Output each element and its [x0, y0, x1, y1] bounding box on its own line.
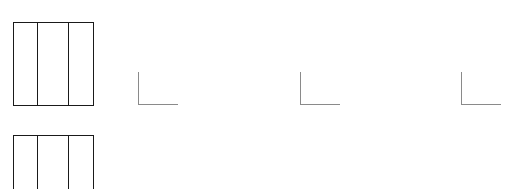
three-column-box-top [13, 22, 94, 106]
column-divider-2 [68, 23, 69, 105]
diagram-canvas [0, 0, 505, 189]
column-divider-2 [68, 136, 69, 189]
axis-corner-2 [300, 72, 340, 105]
three-column-box-bottom [13, 135, 94, 189]
column-divider-1 [37, 23, 38, 105]
axis-corner-3 [461, 72, 501, 105]
axis-corner-1 [138, 72, 178, 105]
column-divider-1 [37, 136, 38, 189]
